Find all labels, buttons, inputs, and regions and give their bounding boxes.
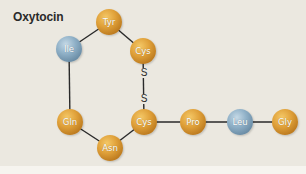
bond-lines	[0, 0, 306, 174]
residue-gln: Gln	[57, 109, 83, 135]
residue-cys-6: Cys	[131, 109, 157, 135]
residue-pro: Pro	[180, 109, 206, 135]
residue-asn: Asn	[97, 135, 123, 161]
sulfur-atom-2: S	[140, 94, 149, 104]
residue-cys-1: Cys	[130, 38, 156, 64]
residue-gly: Gly	[272, 109, 298, 135]
residue-ile: Ile	[56, 36, 82, 62]
residue-tyr: Tyr	[96, 9, 122, 35]
residue-leu: Leu	[227, 109, 253, 135]
sulfur-atom-1: S	[140, 68, 149, 78]
